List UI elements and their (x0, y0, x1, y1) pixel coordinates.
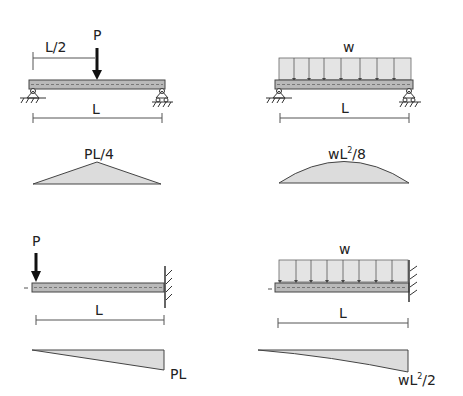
pin-support (20, 89, 46, 104)
load-label: w (339, 241, 350, 257)
span-dimension: L (33, 101, 162, 123)
half-span-dimension: L/2 (33, 39, 95, 70)
span-label: L (92, 101, 100, 117)
moment-diagram: wL2/2 (258, 350, 436, 388)
panel-cantilever-udl: w (258, 241, 436, 388)
load-label: P (32, 233, 40, 249)
moment-diagram: PL/4 (33, 146, 161, 184)
roller-support (152, 89, 173, 108)
span-dimension: L (36, 302, 164, 325)
beam (275, 80, 413, 89)
fixed-support (165, 266, 172, 308)
span-label: L (341, 100, 349, 116)
roller-support (399, 89, 421, 108)
panel-simply-supported-udl: w (266, 39, 421, 183)
distributed-load (279, 58, 411, 81)
beam (32, 283, 164, 292)
moment-label: PL (170, 366, 186, 382)
load-label: P (93, 27, 101, 43)
fixed-support (409, 260, 417, 302)
point-load-arrow: P (92, 27, 102, 80)
moment-diagram: wL2/8 (279, 146, 409, 183)
distributed-load (278, 260, 408, 283)
span-label: L (339, 305, 347, 321)
moment-diagram: PL (32, 350, 186, 382)
beam (275, 283, 409, 292)
panel-simply-supported-point-load: L/2 P (20, 27, 173, 184)
pin-support (266, 89, 292, 104)
span-dimension: L (278, 305, 408, 328)
beam (29, 80, 165, 89)
span-label: L (95, 302, 103, 318)
point-load-arrow: P (31, 233, 41, 282)
span-dimension: L (280, 100, 409, 123)
beam-moment-diagrams: L/2 P (0, 0, 463, 396)
moment-label: wL2/2 (398, 372, 436, 388)
panel-cantilever-point-load: P L PL (24, 233, 186, 382)
load-label: w (343, 39, 354, 55)
moment-label: PL/4 (84, 146, 114, 162)
half-span-label: L/2 (45, 39, 66, 55)
moment-label: wL2/8 (328, 146, 366, 162)
